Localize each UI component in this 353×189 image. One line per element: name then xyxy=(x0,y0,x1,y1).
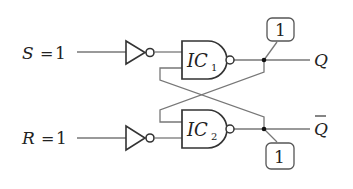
svg-text:2: 2 xyxy=(211,131,217,142)
svg-text:R: R xyxy=(21,128,35,148)
svg-text:IC: IC xyxy=(186,119,208,140)
output-qbar-label: Q xyxy=(314,116,328,139)
svg-text:1: 1 xyxy=(55,43,66,63)
output-q-label: Q xyxy=(314,50,328,70)
callout-bottom: 1 xyxy=(266,143,294,169)
flip-flop-diagram: S = 1 R = 1 IC 1 xyxy=(0,0,353,189)
input-s-label: S = 1 xyxy=(22,43,66,63)
svg-text:1: 1 xyxy=(275,20,286,40)
svg-text:IC: IC xyxy=(186,50,208,71)
nand-gate-ic2: IC 2 xyxy=(182,110,234,148)
callout-top: 1 xyxy=(267,18,294,41)
svg-text:S: S xyxy=(22,43,34,63)
svg-text:=: = xyxy=(41,129,54,148)
junction-qbar xyxy=(262,127,267,132)
svg-text:1: 1 xyxy=(56,128,67,148)
svg-text:=: = xyxy=(40,44,53,63)
junction-q xyxy=(262,58,267,63)
svg-text:1: 1 xyxy=(274,147,285,167)
nand-gate-ic1: IC 1 xyxy=(182,41,234,79)
inverter-s xyxy=(126,41,154,64)
inverter-r xyxy=(126,126,154,150)
svg-text:Q: Q xyxy=(314,119,328,139)
svg-text:1: 1 xyxy=(211,62,217,73)
input-r-label: R = 1 xyxy=(21,128,67,148)
